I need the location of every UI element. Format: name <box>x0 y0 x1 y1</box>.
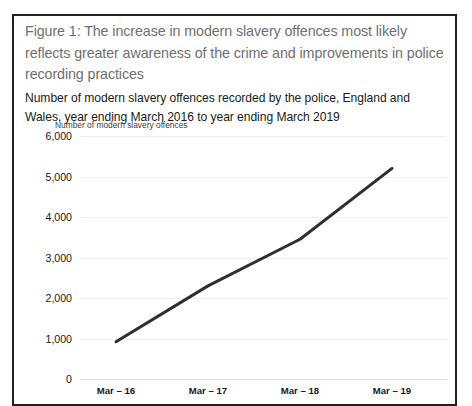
data-series-line <box>79 136 447 379</box>
y-axis-tick-label: 2,000 <box>45 292 72 304</box>
x-axis-tick-label: Mar – 19 <box>373 385 411 396</box>
y-axis-tick-label: 5,000 <box>45 171 72 183</box>
y-axis-tick-label: 0 <box>66 373 72 385</box>
y-axis-tick-label: 6,000 <box>45 130 72 142</box>
figure-card: Figure 1: The increase in modern slavery… <box>12 14 457 406</box>
y-axis-tick-label: 1,000 <box>45 333 72 345</box>
figure-title: Figure 1: The increase in modern slavery… <box>25 21 445 86</box>
line-chart: Number of modern slavery offences 01,000… <box>14 116 456 406</box>
x-axis-tick-label: Mar – 16 <box>97 385 135 396</box>
x-axis-tick-label: Mar – 18 <box>281 385 319 396</box>
gridline <box>79 379 447 380</box>
y-axis-tick-label: 4,000 <box>45 211 72 223</box>
x-axis-tick-label: Mar – 17 <box>189 385 227 396</box>
y-axis-tick-label: 3,000 <box>45 252 72 264</box>
y-axis-title: Number of modern slavery offences <box>55 120 188 130</box>
plot-area: 01,0002,0003,0004,0005,0006,000 Mar – 16… <box>79 136 447 379</box>
